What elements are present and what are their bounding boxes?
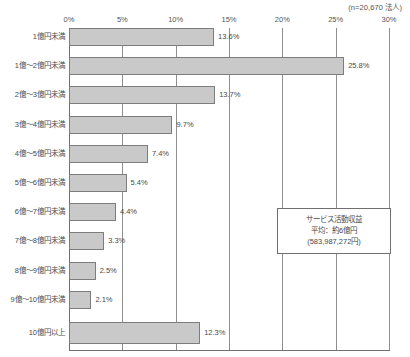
x-tick-0pct: 0% bbox=[64, 15, 75, 24]
x-tick-15pct: 15% bbox=[221, 15, 236, 24]
callout-amount: (583,987,272円) bbox=[280, 236, 388, 247]
bar bbox=[69, 145, 148, 163]
x-axis-baseline bbox=[69, 350, 390, 351]
bar bbox=[69, 232, 104, 250]
category-label: 1億～2億円未満 bbox=[0, 57, 65, 75]
category-label: 10億円以上 bbox=[0, 322, 65, 344]
bar-row: 10億円以上12.3% bbox=[0, 322, 410, 344]
category-label: 1億円未満 bbox=[0, 28, 65, 46]
category-label: 9億～10億円未満 bbox=[0, 291, 65, 309]
bar-value-label: 3.3% bbox=[108, 232, 125, 250]
category-label: 4億～5億円未満 bbox=[0, 145, 65, 163]
category-label: 8億～9億円未満 bbox=[0, 262, 65, 280]
bar bbox=[69, 291, 91, 309]
category-label: 5億～6億円未満 bbox=[0, 174, 65, 192]
bar bbox=[69, 203, 116, 221]
x-tick-10pct: 10% bbox=[168, 15, 183, 24]
bar bbox=[69, 86, 215, 104]
bar-chart: 0%5%10%15%20%25%30% 1億円未満13.6%1億～2億円未満25… bbox=[0, 0, 410, 357]
bar-row: 1億円未満13.6% bbox=[0, 28, 410, 46]
bar-value-label: 25.8% bbox=[348, 57, 369, 75]
bar-row: 3億～4億円未満9.7% bbox=[0, 116, 410, 134]
callout-title: サービス活動収益 bbox=[280, 214, 388, 225]
bar-row: 5億～6億円未満5.4% bbox=[0, 174, 410, 192]
x-tick-20pct: 20% bbox=[275, 15, 290, 24]
bar-row: 4億～5億円未満7.4% bbox=[0, 145, 410, 163]
bar bbox=[69, 262, 96, 280]
category-label: 6億～7億円未満 bbox=[0, 203, 65, 221]
category-label: 2億～3億円未満 bbox=[0, 86, 65, 104]
bar-row: 1億～2億円未満25.8% bbox=[0, 57, 410, 75]
x-tick-25pct: 25% bbox=[328, 15, 343, 24]
bar-value-label: 13.7% bbox=[219, 86, 240, 104]
bar-value-label: 5.4% bbox=[131, 174, 148, 192]
x-tick-30pct: 30% bbox=[381, 15, 396, 24]
bar bbox=[69, 57, 344, 75]
bar-row: 2億～3億円未満13.7% bbox=[0, 86, 410, 104]
category-label: 7億～8億円未満 bbox=[0, 232, 65, 250]
bar bbox=[69, 116, 172, 134]
bar-value-label: 12.3% bbox=[204, 322, 225, 344]
bar-value-label: 13.6% bbox=[218, 28, 239, 46]
category-label: 3億～4億円未満 bbox=[0, 116, 65, 134]
bar-value-label: 9.7% bbox=[176, 116, 193, 134]
bar-value-label: 2.1% bbox=[95, 291, 112, 309]
bar-value-label: 4.4% bbox=[120, 203, 137, 221]
bar-row: 9億～10億円未満2.1% bbox=[0, 291, 410, 309]
bar bbox=[69, 174, 127, 192]
bar bbox=[69, 28, 214, 46]
bar-value-label: 7.4% bbox=[152, 145, 169, 163]
bar-value-label: 2.5% bbox=[100, 262, 117, 280]
x-tick-5pct: 5% bbox=[117, 15, 128, 24]
callout-average: 平均：約6億円 bbox=[280, 225, 388, 236]
bar bbox=[69, 322, 200, 344]
bar-row: 8億～9億円未満2.5% bbox=[0, 262, 410, 280]
callout-box: サービス活動収益 平均：約6億円 (583,987,272円) bbox=[277, 208, 391, 254]
